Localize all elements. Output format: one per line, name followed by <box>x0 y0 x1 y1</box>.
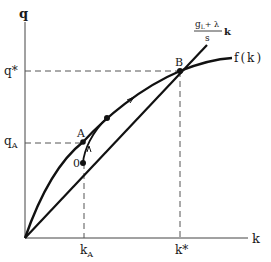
eq-denominator: s <box>205 33 210 43</box>
svg-text:gL+ λ: gL+ λ <box>195 19 219 30</box>
eq-variable: k <box>224 26 232 37</box>
x-axis-label: k <box>252 231 260 246</box>
q-A-label: qA <box>4 134 18 150</box>
point-zero <box>80 160 86 166</box>
point-zero-label: 0 <box>73 157 80 170</box>
production-curve <box>25 58 232 238</box>
y-axis-label: q <box>19 6 28 21</box>
q-star-label: q* <box>4 64 18 78</box>
growth-diagram: q k q* qA kA k* A 0 B f(k) gL+ λ s k <box>0 0 271 262</box>
point-mid <box>104 115 110 121</box>
point-A <box>80 139 86 145</box>
q-A-sub: A <box>11 141 18 150</box>
production-label: f(k) <box>234 51 263 65</box>
eq-plus-lambda: + λ <box>205 20 219 29</box>
point-B-label: B <box>175 56 183 69</box>
k-A-label: kA <box>80 243 93 259</box>
k-A-sub: A <box>86 250 93 259</box>
line-equation-label: gL+ λ s k <box>194 19 232 43</box>
k-star-label: k* <box>175 243 188 257</box>
point-A-label: A <box>76 127 86 140</box>
